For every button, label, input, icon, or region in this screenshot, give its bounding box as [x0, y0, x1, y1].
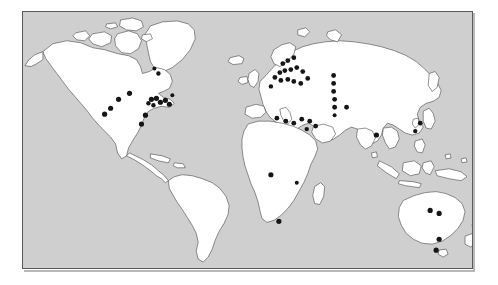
site-marker [163, 98, 168, 103]
site-marker [278, 78, 283, 83]
site-marker [305, 76, 310, 81]
site-marker [307, 119, 312, 124]
site-marker [413, 129, 417, 133]
site-marker [277, 70, 282, 75]
site-marker [291, 79, 296, 84]
site-marker [143, 113, 148, 118]
site-marker [285, 77, 290, 82]
site-marker [313, 124, 318, 129]
site-marker [295, 181, 299, 185]
site-marker [428, 208, 433, 213]
site-marker [282, 68, 287, 73]
site-marker [156, 71, 160, 75]
site-marker [102, 112, 107, 117]
site-marker [298, 81, 303, 86]
site-marker [276, 219, 281, 224]
figure-root [0, 0, 498, 285]
site-marker [274, 116, 279, 121]
site-marker [291, 121, 296, 126]
landmass-sri-lanka [371, 152, 377, 158]
site-marker [300, 69, 305, 74]
site-marker [283, 119, 288, 124]
site-marker [127, 91, 132, 96]
site-marker [294, 65, 299, 70]
site-marker [374, 132, 379, 137]
site-marker [170, 93, 174, 97]
site-marker [149, 97, 154, 102]
site-marker [167, 102, 172, 107]
site-marker [269, 84, 273, 88]
site-marker [288, 67, 293, 72]
site-marker [332, 97, 337, 102]
site-marker [285, 58, 290, 63]
site-marker [434, 248, 439, 253]
site-marker [291, 55, 296, 60]
site-marker [158, 100, 163, 105]
site-marker [299, 117, 304, 122]
site-marker [437, 211, 442, 216]
site-marker [332, 105, 337, 110]
site-marker [331, 81, 336, 86]
site-marker [305, 127, 309, 131]
site-marker [333, 113, 337, 117]
site-marker [331, 89, 336, 94]
site-marker [139, 122, 144, 127]
site-marker [108, 106, 113, 111]
landmass-pacific-islet-b [445, 154, 451, 159]
site-marker [116, 97, 121, 102]
panel-drop-shadow-right [473, 13, 475, 271]
world-map-svg [23, 12, 472, 268]
site-marker [272, 75, 277, 80]
landmass-pacific-islet-a [461, 158, 467, 163]
site-marker [331, 73, 336, 78]
site-marker [146, 101, 150, 105]
site-marker [344, 105, 349, 110]
site-marker [418, 121, 423, 126]
site-marker [437, 237, 442, 242]
world-map-panel [22, 11, 473, 269]
site-marker [151, 103, 155, 107]
site-marker [280, 61, 285, 66]
panel-drop-shadow-bottom [24, 270, 475, 272]
site-marker [152, 67, 156, 71]
site-marker [268, 172, 273, 177]
site-marker [154, 96, 159, 101]
